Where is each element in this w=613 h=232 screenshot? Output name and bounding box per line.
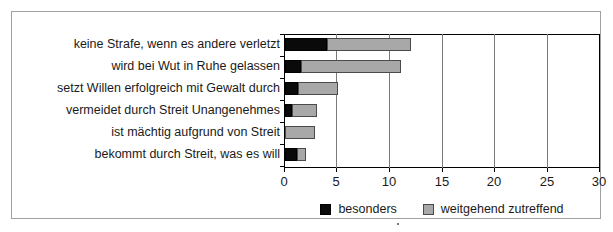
x-axis-tick-label: 20 xyxy=(474,174,514,189)
y-axis-tick xyxy=(280,100,284,101)
category-label: ist mächtig aufgrund von Streit xyxy=(18,126,280,139)
gridline-x-10 xyxy=(389,34,390,168)
bar-segment-besonders xyxy=(285,148,297,161)
x-axis-tick xyxy=(284,168,285,172)
bar-segment-weitgehend-zutreffend xyxy=(301,60,401,73)
category-axis-labels: keine Strafe, wenn es andere verletzt wi… xyxy=(12,34,280,168)
category-label: bekommt durch Streit, was es will xyxy=(18,148,280,161)
y-axis-tick xyxy=(280,34,284,35)
y-axis-tick xyxy=(280,144,284,145)
x-axis-tick xyxy=(442,168,443,172)
x-axis-tick xyxy=(599,168,600,172)
bar-segment-weitgehend-zutreffend xyxy=(292,104,317,117)
plot-right-border xyxy=(599,34,600,168)
bar-segment-weitgehend-zutreffend xyxy=(327,38,411,51)
legend-label: weitgehend zutreffend xyxy=(441,202,564,216)
chart-legend: besonders weitgehend zutreffend xyxy=(284,200,600,218)
y-axis-tick xyxy=(280,166,284,167)
bar-segment-weitgehend-zutreffend xyxy=(297,148,306,161)
x-axis-tick-label: 15 xyxy=(422,174,462,189)
legend-swatch-icon xyxy=(423,204,434,215)
legend-entry-weitgehend-zutreffend: weitgehend zutreffend xyxy=(423,202,564,216)
gridline-x-25 xyxy=(547,34,548,168)
bar-segment-weitgehend-zutreffend xyxy=(285,126,315,139)
x-axis-tick-label: 30 xyxy=(579,174,613,189)
x-axis-tick-label: 5 xyxy=(316,174,356,189)
y-axis-tick xyxy=(280,78,284,79)
legend-entry-besonders: besonders xyxy=(320,202,396,216)
x-axis-tick xyxy=(389,168,390,172)
category-label: setzt Willen erfolgreich mit Gewalt durc… xyxy=(18,82,280,95)
x-axis-tick-label: 0 xyxy=(264,174,304,189)
gridline-x-15 xyxy=(442,34,443,168)
y-axis-tick xyxy=(280,122,284,123)
x-axis-tick-label: 25 xyxy=(527,174,567,189)
bar-segment-besonders xyxy=(285,38,327,51)
bar-segment-besonders xyxy=(285,60,301,73)
legend-swatch-icon xyxy=(320,204,331,215)
chart-figure: keine Strafe, wenn es andere verletzt wi… xyxy=(0,0,613,232)
x-axis-tick-label: 10 xyxy=(369,174,409,189)
category-label: wird bei Wut in Ruhe gelassen xyxy=(18,60,280,73)
category-label: vermeidet durch Streit Unangenehmes xyxy=(18,104,280,117)
legend-label: besonders xyxy=(338,202,396,216)
y-axis-tick xyxy=(280,56,284,57)
figure-frame: keine Strafe, wenn es andere verletzt wi… xyxy=(11,11,601,219)
x-axis-tick xyxy=(494,168,495,172)
bar-segment-besonders xyxy=(285,82,298,95)
plot-area: 0 5 10 15 20 25 30 xyxy=(284,34,600,168)
gridline-x-20 xyxy=(494,34,495,168)
x-axis-tick xyxy=(547,168,548,172)
x-axis-tick xyxy=(336,168,337,172)
scan-artifact-speck xyxy=(397,223,399,225)
category-label: keine Strafe, wenn es andere verletzt xyxy=(18,38,280,51)
bar-segment-besonders xyxy=(285,104,292,117)
bar-segment-weitgehend-zutreffend xyxy=(298,82,338,95)
gridline-x-5 xyxy=(336,34,337,168)
